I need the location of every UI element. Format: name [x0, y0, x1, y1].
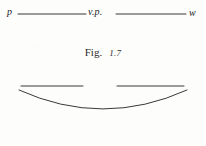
- figure-1-7-diagram: [0, 0, 206, 34]
- figure-1-7: p v.p. w Fig.1.7: [0, 0, 206, 70]
- figure-1-7-caption-word: Fig.: [85, 46, 102, 58]
- figure-1-7-label-w: w: [189, 8, 196, 18]
- figure-page: p v.p. w Fig.1.7 p v.p. w Fig.1.8: [0, 0, 206, 146]
- figure-1-8-diagram: [0, 70, 206, 120]
- figure-1-8-arc: [19, 90, 187, 109]
- figure-1-8: p v.p. w Fig.1.8: [0, 70, 206, 146]
- figure-1-7-caption-number: 1.7: [109, 48, 121, 58]
- figure-1-7-caption: Fig.1.7: [0, 43, 206, 59]
- figure-1-7-label-vp: v.p.: [88, 7, 103, 17]
- figure-1-7-label-p: p: [7, 7, 12, 17]
